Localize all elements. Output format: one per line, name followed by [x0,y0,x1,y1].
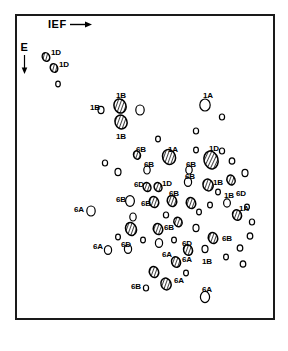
spot-label: 6A [202,286,212,294]
spot-label: 1B [116,92,126,100]
spot-label: 1D [162,180,172,188]
spot-label: 6B [169,190,179,198]
ief-axis-label: IEF [48,19,67,30]
spot-label: 1A [239,205,249,213]
spot-label: 1B [116,133,126,141]
spot-label: 6A [182,256,192,264]
spot-label: 6B [131,283,141,291]
spot-label: 1B [202,258,212,266]
spot-label: 6B [141,200,151,208]
spot-label: 1D [59,61,69,69]
spot-label: 6A [162,251,172,259]
spot-label: 6D [236,190,246,198]
gel-figure: IEF E 1D1D1B1B1B1A6B1A1D6B6B6D1D6B1B6D6B… [0,0,288,351]
e-axis-annotation: E [20,42,29,74]
spot-label: 6D [121,241,131,249]
spot-label: 6B [164,224,174,232]
spot-label: 1D [209,145,219,153]
spot-label: 6B [185,173,195,181]
spot-label: 1D [51,49,61,57]
spot-label: 1B [90,104,100,112]
spot-label: 6D [182,240,192,248]
spot-label: 6B [222,235,232,243]
spot-label: 1B [213,179,223,187]
spot-label: 6A [174,277,184,285]
down-arrow-icon [20,55,29,74]
spot-label: 6B [186,161,196,169]
spot-label: 6B [136,146,146,154]
spot-label: 1A [168,146,178,154]
ief-axis-annotation: IEF [48,19,92,30]
spot-label: 1A [203,92,213,100]
e-axis-label: E [21,42,29,53]
spot-label: 6A [74,206,84,214]
spot-label: 1B [224,192,234,200]
right-arrow-icon [70,20,92,29]
spot-label: 6A [93,243,103,251]
spot-label: 6B [116,196,126,204]
spot-label: 6B [144,161,154,169]
spot-label: 6D [134,181,144,189]
